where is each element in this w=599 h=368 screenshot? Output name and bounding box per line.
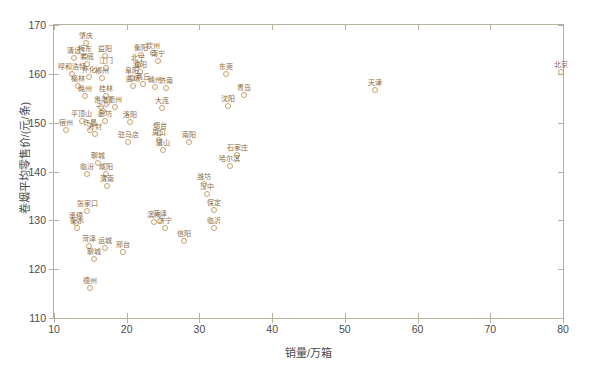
data-point-marker[interactable] bbox=[138, 52, 144, 58]
data-point-marker[interactable] bbox=[84, 208, 90, 214]
x-axis-tick-inner bbox=[563, 313, 564, 318]
data-point-marker[interactable] bbox=[159, 105, 165, 111]
data-point-marker[interactable] bbox=[152, 84, 158, 90]
data-point-marker[interactable] bbox=[82, 53, 88, 59]
data-point-label: 益阳 bbox=[98, 45, 112, 53]
data-point-label: 聊城 bbox=[87, 248, 101, 256]
data-point-label: 菏泽 bbox=[153, 210, 167, 218]
data-point-marker[interactable] bbox=[71, 55, 77, 61]
data-point-marker[interactable] bbox=[163, 85, 169, 91]
data-point-label: 烟台 bbox=[153, 122, 167, 130]
x-axis-title: 销量/万箱 bbox=[53, 344, 564, 360]
data-point-marker[interactable] bbox=[155, 58, 161, 64]
data-point-label: 大连 bbox=[155, 97, 169, 105]
data-point-marker[interactable] bbox=[86, 74, 92, 80]
data-point-label: 潍坊 bbox=[197, 173, 211, 181]
data-point-marker[interactable] bbox=[112, 104, 118, 110]
data-point-marker[interactable] bbox=[201, 181, 207, 187]
x-axis-tick-top bbox=[345, 25, 346, 30]
data-point-marker[interactable] bbox=[69, 71, 75, 77]
x-axis-tick-inner bbox=[345, 313, 346, 318]
data-point-marker[interactable] bbox=[102, 245, 108, 251]
data-point-marker[interactable] bbox=[234, 152, 240, 158]
data-point-marker[interactable] bbox=[103, 171, 109, 177]
data-point-marker[interactable] bbox=[125, 139, 131, 145]
data-point-marker[interactable] bbox=[91, 256, 97, 262]
data-point-label: 洛阳 bbox=[123, 111, 137, 119]
data-point-marker[interactable] bbox=[211, 207, 217, 213]
data-point-marker[interactable] bbox=[75, 83, 81, 89]
data-point-label: 临沂 bbox=[207, 217, 221, 225]
data-point-marker[interactable] bbox=[63, 127, 69, 133]
data-point-marker[interactable] bbox=[95, 160, 101, 166]
data-point-marker[interactable] bbox=[84, 171, 90, 177]
y-axis-tick-inner bbox=[54, 172, 59, 173]
x-axis-tick-inner bbox=[199, 313, 200, 318]
data-point-label: 梅东 bbox=[78, 45, 92, 53]
data-point-marker[interactable] bbox=[223, 71, 229, 77]
data-point-marker[interactable] bbox=[100, 108, 106, 114]
data-point-label: 临汾 bbox=[80, 163, 94, 171]
data-point-marker[interactable] bbox=[104, 183, 110, 189]
data-point-marker[interactable] bbox=[84, 61, 90, 67]
data-point-label: 邢台 bbox=[116, 241, 130, 249]
data-point-marker[interactable] bbox=[140, 81, 146, 87]
data-point-marker[interactable] bbox=[135, 62, 141, 68]
x-axis-tick-top bbox=[490, 25, 491, 30]
data-point-label: 衡阳 bbox=[134, 44, 148, 52]
y-axis-tick-right bbox=[558, 123, 563, 124]
data-point-label: 菏泽 bbox=[82, 235, 96, 243]
x-axis-tick-label: 80 bbox=[557, 323, 569, 335]
data-point-marker[interactable] bbox=[103, 65, 109, 71]
data-point-marker[interactable] bbox=[127, 119, 133, 125]
data-point-marker[interactable] bbox=[103, 93, 109, 99]
data-point-label: 东莞 bbox=[219, 63, 233, 71]
data-point-marker[interactable] bbox=[372, 87, 378, 93]
data-point-marker[interactable] bbox=[102, 118, 108, 124]
data-point-marker[interactable] bbox=[82, 93, 88, 99]
data-point-label: 沈阳 bbox=[221, 95, 235, 103]
data-point-label: 赣州 bbox=[148, 76, 162, 84]
data-point-marker[interactable] bbox=[79, 118, 85, 124]
x-axis-tick-label: 60 bbox=[412, 323, 424, 335]
data-point-marker[interactable] bbox=[227, 163, 233, 169]
data-point-marker[interactable] bbox=[181, 238, 187, 244]
data-point-label: 平顶山 bbox=[71, 110, 92, 118]
data-point-marker[interactable] bbox=[186, 139, 192, 145]
data-point-marker[interactable] bbox=[162, 225, 168, 231]
data-point-marker[interactable] bbox=[86, 243, 92, 249]
data-point-marker[interactable] bbox=[225, 103, 231, 109]
data-point-label: 驻马店 bbox=[118, 131, 139, 139]
data-point-marker[interactable] bbox=[120, 249, 126, 255]
data-point-marker[interactable] bbox=[129, 75, 135, 81]
data-point-marker[interactable] bbox=[87, 285, 93, 291]
data-point-marker[interactable] bbox=[157, 130, 163, 136]
data-point-marker[interactable] bbox=[92, 131, 98, 137]
data-point-marker[interactable] bbox=[160, 147, 166, 153]
y-axis-tick-inner bbox=[54, 220, 59, 221]
x-axis-tick-inner bbox=[127, 313, 128, 318]
x-axis-tick-label: 30 bbox=[194, 323, 206, 335]
data-point-marker[interactable] bbox=[99, 75, 105, 81]
y-axis-title: 卷烟平均零售价/(元/条) bbox=[16, 48, 32, 268]
data-point-marker[interactable] bbox=[150, 50, 156, 56]
x-axis-tick-top bbox=[563, 25, 564, 30]
y-axis-tick-label: 110 bbox=[29, 312, 46, 324]
data-point-marker[interactable] bbox=[157, 218, 163, 224]
x-axis-tick-inner bbox=[54, 313, 55, 318]
data-point-marker[interactable] bbox=[83, 40, 89, 46]
y-axis-tick-right bbox=[558, 220, 563, 221]
data-point-label: 天津 bbox=[368, 79, 382, 87]
data-point-label: 南阳 bbox=[182, 131, 196, 139]
data-point-marker[interactable] bbox=[130, 83, 136, 89]
data-point-marker[interactable] bbox=[241, 92, 247, 98]
data-point-marker[interactable] bbox=[211, 225, 217, 231]
y-axis-tick-inner bbox=[54, 74, 59, 75]
data-point-marker[interactable] bbox=[102, 53, 108, 59]
data-point-label: 保定 bbox=[207, 199, 221, 207]
data-point-marker[interactable] bbox=[137, 69, 143, 75]
data-point-marker[interactable] bbox=[204, 191, 210, 197]
data-point-marker[interactable] bbox=[156, 137, 162, 143]
x-axis-tick-label: 70 bbox=[484, 323, 496, 335]
data-point-marker[interactable] bbox=[74, 225, 80, 231]
